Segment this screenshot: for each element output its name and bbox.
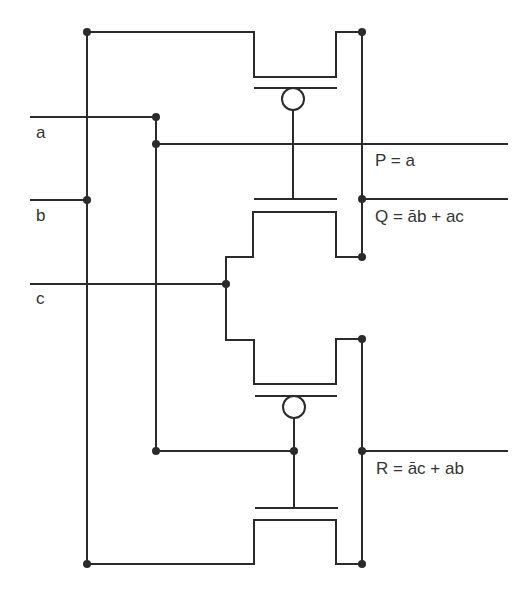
output-p-label: P = a (375, 152, 415, 169)
tg1-pmos-channel (87, 32, 362, 77)
input-a-label: a (36, 124, 45, 141)
junction-dot (83, 560, 91, 568)
input-b-label: b (36, 207, 45, 224)
tg2-pmos-channel (226, 284, 362, 384)
tg2-pmos-bubble (283, 396, 305, 418)
junction-dot (358, 560, 366, 568)
junction-dot (358, 335, 366, 343)
junction-dot (358, 253, 366, 261)
junction-dot (83, 28, 91, 36)
output-q-label: Q = āb + ac (375, 208, 464, 225)
junction-dot (83, 196, 91, 204)
junction-dot (358, 195, 366, 203)
output-r-label: R = āc + ab (376, 460, 464, 477)
junction-dot (152, 113, 160, 121)
input-c-label: c (36, 290, 45, 307)
junction-dot (358, 28, 366, 36)
junction-dot (152, 447, 160, 455)
junction-dot (222, 280, 230, 288)
junction-dot (290, 447, 298, 455)
tg1-pmos-bubble (282, 88, 304, 110)
tg1-nmos-channel (226, 212, 362, 284)
junction-dot (152, 140, 160, 148)
circuit-diagram (0, 0, 530, 598)
tg2-nmos-channel (87, 520, 362, 564)
junction-dot (358, 447, 366, 455)
